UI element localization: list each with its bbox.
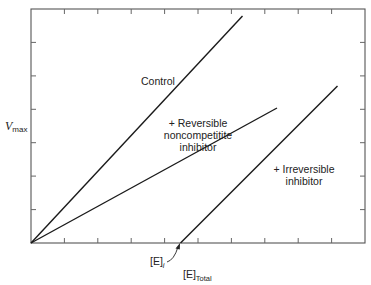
irreversible-label-line2: inhibitor: [264, 175, 344, 187]
ei-label: [E]i: [150, 255, 165, 272]
reversible-inhibitor-label: + Reversible noncompetitite inhibitor: [156, 117, 240, 153]
ei-pointer-arrow: [167, 247, 178, 262]
ei-label-sub: i: [163, 261, 165, 270]
irreversible-label-line1: + Irreversible: [264, 163, 344, 175]
irreversible-inhibitor-label: + Irreversible inhibitor: [264, 163, 344, 187]
x-axis-label-main: [E]: [183, 268, 196, 280]
bottom-ticks: [64, 238, 331, 243]
x-axis-label: [E]Total: [183, 268, 212, 285]
left-ticks: [31, 42, 36, 209]
top-ticks: [64, 9, 331, 14]
reversible-label-line3: inhibitor: [156, 141, 240, 153]
y-axis-label-sub: max: [12, 125, 27, 134]
reversible-label-line1: + Reversible: [156, 117, 240, 129]
x-axis-label-sub: Total: [196, 274, 212, 283]
ei-arrowhead-icon: [176, 243, 181, 250]
reversible-label-line2: noncompetitite: [156, 129, 240, 141]
control-label: Control: [141, 75, 175, 87]
right-ticks: [360, 42, 365, 209]
reversible-inhibitor-line: [31, 108, 277, 243]
y-axis-label: Vmax: [5, 120, 27, 136]
ei-label-main: [E]: [150, 255, 163, 267]
